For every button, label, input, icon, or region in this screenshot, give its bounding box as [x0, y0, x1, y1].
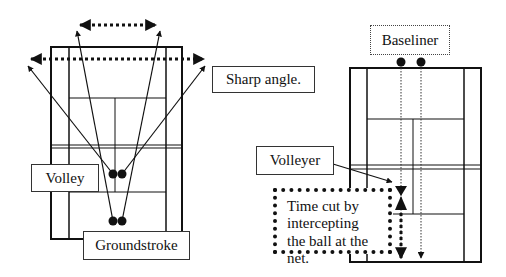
groundstroke-label: Groundstroke: [83, 231, 190, 260]
volley-label: Volley: [31, 164, 99, 192]
players-right: [397, 58, 426, 67]
time-cut-markers: [395, 186, 407, 210]
time-cut-label: Time cut by intercepting the ball at the…: [273, 188, 392, 254]
volleyer-label: Volleyer: [256, 146, 334, 175]
baseliner-paths: [401, 62, 421, 258]
volleyer-arrow: [333, 164, 392, 182]
sharp-angle-label: Sharp angle.: [212, 66, 315, 93]
left-court: [51, 47, 182, 239]
baseliner-label: Baseliner: [370, 25, 450, 55]
players-left: [109, 170, 127, 226]
coverage-arrows: [31, 25, 204, 59]
